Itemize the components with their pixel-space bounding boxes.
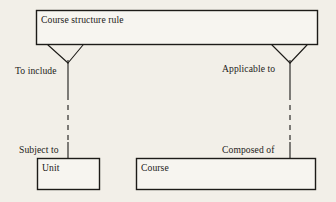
relationship-label-subject-to: Subject to xyxy=(19,145,59,155)
crows-foot-left xyxy=(48,45,83,63)
entity-label-course: Course xyxy=(141,163,169,173)
entity-label-course-structure-rule: Course structure rule xyxy=(41,15,124,25)
diagram-canvas: Course structure rule Unit Course To inc… xyxy=(0,0,336,202)
relationship-label-applicable-to: Applicable to xyxy=(222,64,275,74)
relationship-label-to-include: To include xyxy=(15,66,57,76)
entity-label-unit: Unit xyxy=(42,163,59,173)
relationship-label-composed-of: Composed of xyxy=(222,145,275,155)
